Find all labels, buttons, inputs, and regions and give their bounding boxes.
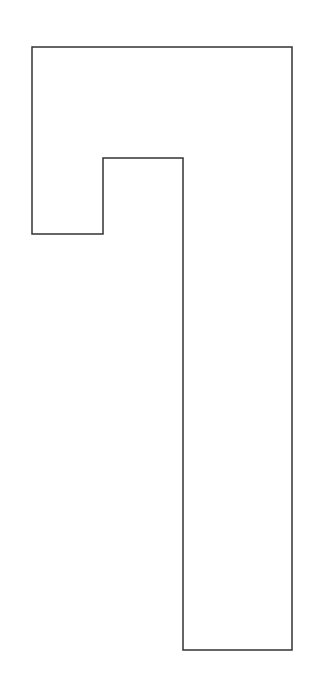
stepped-polygon-outline bbox=[32, 47, 292, 650]
diagram-canvas bbox=[0, 0, 320, 675]
polygon-shape-drawing bbox=[0, 0, 320, 675]
